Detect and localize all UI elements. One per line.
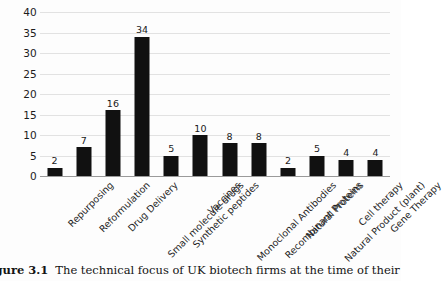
x-axis-labels: RepurposingReformulationDrug DeliverySma… bbox=[40, 178, 390, 258]
bar[interactable] bbox=[47, 168, 62, 176]
x-axis-label-slot: Recombinant Proteins bbox=[244, 178, 273, 258]
bar[interactable] bbox=[251, 143, 266, 176]
x-axis-label-slot: Drug Delivery bbox=[98, 178, 127, 258]
y-axis-tick-label: 20 bbox=[3, 89, 37, 100]
bar-group: 2 bbox=[40, 12, 69, 176]
x-axis-label-slot: Cell therapy bbox=[332, 178, 361, 258]
bar[interactable] bbox=[193, 135, 208, 176]
bar[interactable] bbox=[76, 147, 91, 176]
x-axis-label-slot: Repurposing bbox=[40, 178, 69, 258]
bar-value-label: 2 bbox=[52, 156, 58, 166]
y-axis-tick-label: 5 bbox=[3, 151, 37, 162]
y-axis-tick-label: 30 bbox=[3, 48, 37, 59]
y-axis-tick-label: 25 bbox=[3, 69, 37, 80]
bar-value-label: 8 bbox=[256, 132, 262, 142]
x-axis-label-slot: Gene Therapy bbox=[361, 178, 390, 258]
bar-value-label: 10 bbox=[194, 124, 206, 134]
x-axis-label-slot: Small molecule drugs bbox=[128, 178, 157, 258]
bar-group: 16 bbox=[98, 12, 127, 176]
x-axis-label-slot: Natural Product (plant) bbox=[303, 178, 332, 258]
x-axis-label-slot: Monoclonal Antibodies bbox=[215, 178, 244, 258]
bar-group: 34 bbox=[128, 12, 157, 176]
bar-value-label: 8 bbox=[227, 132, 233, 142]
y-axis: 0510152025303540 bbox=[0, 12, 37, 176]
bar-value-label: 2 bbox=[285, 156, 291, 166]
caption-text: The technical focus of UK biotech firms … bbox=[55, 263, 401, 277]
bar-value-label: 5 bbox=[314, 144, 320, 154]
bar-value-label: 34 bbox=[136, 25, 148, 35]
bar-value-label: 5 bbox=[168, 144, 174, 154]
bar[interactable] bbox=[280, 168, 295, 176]
bar[interactable] bbox=[310, 156, 325, 177]
bar-group: 7 bbox=[69, 12, 98, 176]
bar-group: 8 bbox=[244, 12, 273, 176]
bar[interactable] bbox=[368, 160, 383, 176]
bar-value-label: 7 bbox=[81, 136, 87, 146]
bar-group: 5 bbox=[303, 12, 332, 176]
y-axis-tick-label: 35 bbox=[3, 28, 37, 39]
bar-group: 8 bbox=[215, 12, 244, 176]
bar-value-label: 16 bbox=[107, 99, 119, 109]
caption-label: Figure 3.1 bbox=[0, 263, 48, 277]
x-axis-label-slot: Synthetic peptides bbox=[157, 178, 186, 258]
x-axis-label-slot: Natural Proteins bbox=[273, 178, 302, 258]
y-axis-tick-label: 15 bbox=[3, 110, 37, 121]
bar-group: 10 bbox=[186, 12, 215, 176]
bar-group: 4 bbox=[332, 12, 361, 176]
bar-value-label: 4 bbox=[372, 148, 378, 158]
y-axis-tick-label: 40 bbox=[3, 7, 37, 18]
bar[interactable] bbox=[164, 156, 179, 177]
axis-baseline bbox=[40, 176, 390, 177]
bar-group: 5 bbox=[157, 12, 186, 176]
figure-caption: Figure 3.1The technical focus of UK biot… bbox=[0, 262, 401, 281]
x-axis-label-slot: Reformulation bbox=[69, 178, 98, 258]
bar-group: 2 bbox=[273, 12, 302, 176]
x-axis-label-slot: Vaccines bbox=[186, 178, 215, 258]
y-axis-tick-label: 0 bbox=[3, 171, 37, 182]
bar[interactable] bbox=[222, 143, 237, 176]
y-axis-tick-label: 10 bbox=[3, 130, 37, 141]
bar-value-label: 4 bbox=[343, 148, 349, 158]
plot-area: 271634510882544 bbox=[40, 12, 390, 176]
bar[interactable] bbox=[339, 160, 354, 176]
bar-group: 4 bbox=[361, 12, 390, 176]
bar[interactable] bbox=[135, 37, 150, 176]
bar[interactable] bbox=[105, 110, 120, 176]
